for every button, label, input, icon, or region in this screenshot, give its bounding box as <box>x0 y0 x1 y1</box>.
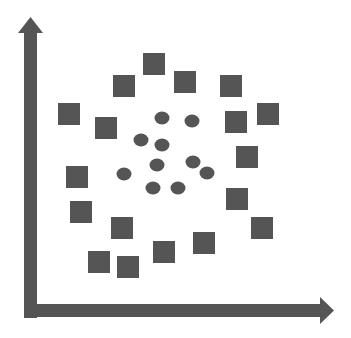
circle-markers <box>117 112 215 195</box>
square-marker <box>143 53 165 75</box>
square-markers <box>58 53 279 278</box>
square-marker <box>174 71 196 93</box>
square-marker <box>257 103 279 125</box>
square-marker <box>58 103 80 125</box>
circle-marker <box>150 159 165 172</box>
square-marker <box>113 75 135 97</box>
square-marker <box>88 251 110 273</box>
square-marker <box>193 232 215 254</box>
scatter-diagram <box>0 0 351 338</box>
circle-marker <box>155 112 170 125</box>
circle-marker <box>146 182 161 195</box>
square-marker <box>111 217 133 239</box>
square-marker <box>117 256 139 278</box>
circle-marker <box>186 156 201 169</box>
square-marker <box>70 201 92 223</box>
circle-marker <box>171 182 186 195</box>
square-marker <box>66 166 88 188</box>
y-axis-line <box>24 30 37 318</box>
square-marker <box>226 188 248 210</box>
circle-marker <box>200 167 215 180</box>
square-marker <box>153 241 175 263</box>
axes <box>18 17 334 324</box>
square-marker <box>251 217 273 239</box>
x-axis-line <box>24 304 322 317</box>
y-axis-arrowhead-icon <box>18 17 43 33</box>
square-marker <box>236 146 258 168</box>
square-marker <box>220 75 242 97</box>
circle-marker <box>134 134 149 147</box>
square-marker <box>95 117 117 139</box>
circle-marker <box>117 168 132 181</box>
circle-marker <box>185 115 200 128</box>
square-marker <box>225 111 247 133</box>
circle-marker <box>155 139 170 152</box>
x-axis-arrowhead-icon <box>320 297 334 324</box>
